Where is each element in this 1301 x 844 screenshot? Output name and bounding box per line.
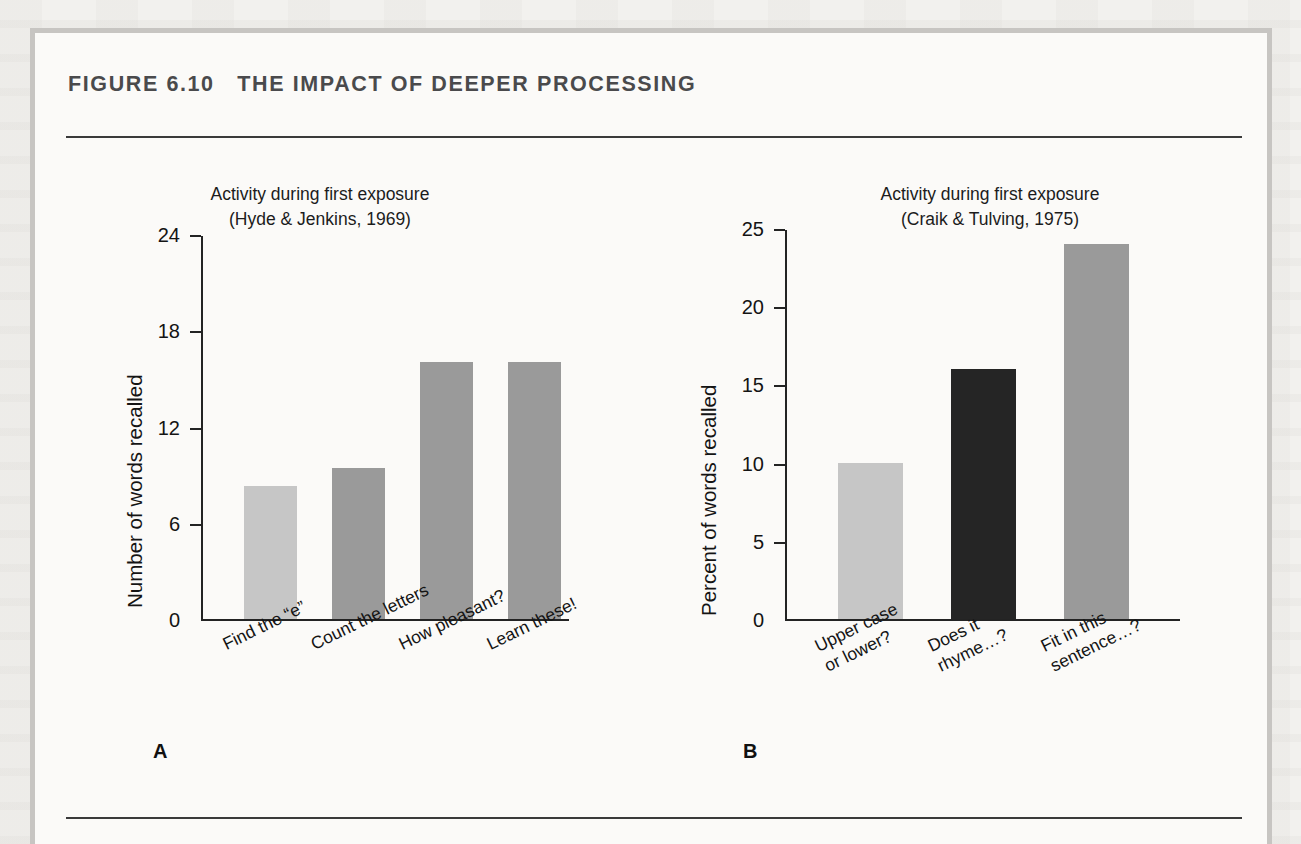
figure-bottom-divider: [66, 817, 1242, 819]
chart-a-title: Activity during first exposure (Hyde & J…: [20, 182, 620, 232]
bar: [508, 362, 561, 619]
y-tick-label: 0: [753, 609, 764, 632]
y-tick-mark: [774, 542, 785, 544]
chart-a-title-line2: (Hyde & Jenkins, 1969): [20, 207, 620, 232]
bar: [420, 362, 473, 619]
y-tick-label: 18: [158, 320, 180, 343]
y-tick-label: 20: [742, 296, 764, 319]
y-tick-label: 25: [742, 218, 764, 241]
bar: [838, 463, 903, 619]
figure-heading: FIGURE 6.10 THE IMPACT OF DEEPER PROCESS…: [68, 72, 696, 97]
chart-b-plot-area: Percent of words recalled 0510152025 Upp…: [785, 230, 1127, 621]
chart-a-y-axis-label: Number of words recalled: [123, 374, 147, 608]
chart-panel-a: Activity during first exposure (Hyde & J…: [60, 160, 660, 820]
panel-letter-a: A: [153, 740, 167, 763]
chart-a-plot-area: Number of words recalled 06121824 Find t…: [201, 236, 548, 621]
bar: [1064, 244, 1129, 619]
y-tick-mark: [774, 385, 785, 387]
y-tick-label: 15: [742, 374, 764, 397]
bar: [244, 486, 297, 619]
y-tick-label: 6: [169, 513, 180, 536]
y-tick-label: 0: [169, 609, 180, 632]
y-tick-label: 10: [742, 453, 764, 476]
y-tick-mark: [774, 464, 785, 466]
chart-b-y-axis: [785, 230, 787, 621]
y-tick-label: 12: [158, 417, 180, 440]
y-tick-label: 24: [158, 224, 180, 247]
chart-b-title: Activity during first exposure (Craik & …: [690, 182, 1290, 232]
bar: [951, 369, 1016, 619]
y-tick-mark: [190, 235, 201, 237]
y-tick-mark: [190, 331, 201, 333]
chart-a-title-line1: Activity during first exposure: [20, 182, 620, 207]
title-divider: [66, 136, 1242, 138]
bar: [332, 468, 385, 619]
panel-letter-b: B: [743, 740, 757, 763]
chart-a-y-axis: [201, 236, 203, 621]
y-tick-label: 5: [753, 531, 764, 554]
y-tick-mark: [190, 428, 201, 430]
chart-panel-b: Activity during first exposure (Craik & …: [660, 160, 1260, 820]
chart-b-title-line1: Activity during first exposure: [690, 182, 1290, 207]
y-tick-mark: [774, 307, 785, 309]
chart-b-y-axis-label: Percent of words recalled: [697, 385, 721, 616]
y-tick-mark: [190, 524, 201, 526]
y-tick-mark: [774, 229, 785, 231]
